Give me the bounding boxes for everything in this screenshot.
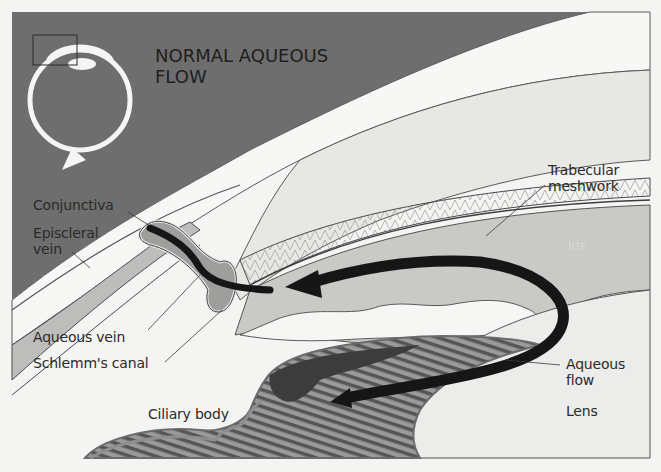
diagram-title-line2: FLOW xyxy=(155,67,207,87)
label-iris: Iris xyxy=(568,238,585,254)
label-trabecular-meshwork-line1: Trabecular xyxy=(548,162,619,178)
label-conjunctiva: Conjunctiva xyxy=(33,197,114,213)
label-ciliary-body: Ciliary body xyxy=(148,406,229,422)
label-aqueous-flow-line2: flow xyxy=(566,372,594,388)
label-aqueous-flow-line1: Aqueous xyxy=(566,356,625,372)
label-schlemms-canal: Schlemm's canal xyxy=(33,355,148,371)
label-episcleral-vein-line2: vein xyxy=(33,241,62,257)
label-aqueous-vein: Aqueous vein xyxy=(33,329,125,345)
aqueous-flow-diagram: NORMAL AQUEOUS FLOW Conjunctiva Episcler… xyxy=(0,0,661,472)
label-trabecular-meshwork-line2: meshwork xyxy=(548,178,619,194)
diagram-title-line1: NORMAL AQUEOUS xyxy=(155,46,328,66)
eye-cross-section-illustration xyxy=(0,0,661,472)
label-lens: Lens xyxy=(566,403,598,419)
label-episcleral-vein-line1: Episcleral xyxy=(33,225,98,241)
